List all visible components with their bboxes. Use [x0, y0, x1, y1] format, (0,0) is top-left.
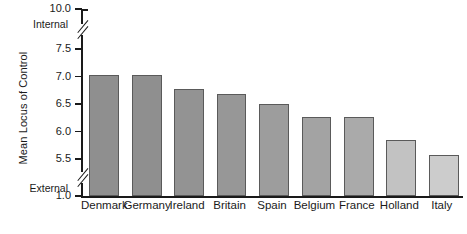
bar-ireland [174, 89, 204, 196]
x-axis-label-france: France [336, 199, 378, 211]
x-axis-label-denmark: Denmark [81, 199, 123, 211]
y-axis-title: Mean Locus of Control [17, 38, 29, 178]
x-axis-label-belgium: Belgium [293, 199, 335, 211]
y-tick-label-10.0: 10.0 [37, 2, 71, 14]
bar-france [344, 117, 374, 197]
bar-holland [386, 140, 416, 196]
x-axis-label-spain: Spain [251, 199, 293, 211]
x-axis-label-holland: Holland [378, 199, 420, 211]
plot-area [81, 9, 463, 198]
y-tick-label-5.5: 5.5 [37, 152, 71, 164]
y-tick-7.0 [75, 76, 82, 77]
x-axis-label-ireland: Ireland [166, 199, 208, 211]
y-tick-label-6.5: 6.5 [37, 97, 71, 109]
axis-break-1 [74, 22, 91, 37]
y-tick-6.0 [75, 131, 82, 132]
y-axis-top-cap [81, 9, 88, 11]
bar-germany [132, 75, 162, 196]
y-tick-label-1.0: 1.0 [37, 189, 71, 201]
x-axis-label-italy: Italy [421, 199, 463, 211]
bar-britain [217, 94, 247, 197]
y-tick-5.5 [75, 158, 82, 159]
y-tick-label-7.0: 7.0 [37, 70, 71, 82]
y-tick-6.5 [75, 103, 82, 104]
y-tick-7.5 [75, 48, 82, 49]
x-axis-category-labels: DenmarkGermanyIrelandBritainSpainBelgium… [81, 199, 463, 219]
x-axis-line [81, 196, 463, 198]
pole-label-internal: Internal [8, 18, 68, 30]
y-tick-label-6.0: 6.0 [37, 125, 71, 137]
bar-belgium [302, 117, 332, 197]
bar-spain [259, 104, 289, 196]
x-axis-label-britain: Britain [208, 199, 250, 211]
bar-denmark [89, 75, 119, 196]
y-tick-label-7.5: 7.5 [37, 42, 71, 54]
bar-italy [429, 155, 459, 196]
x-axis-label-germany: Germany [123, 199, 165, 211]
bar-chart: Mean Locus of Control Internal External … [0, 0, 467, 234]
y-tick-10.0 [75, 8, 82, 9]
